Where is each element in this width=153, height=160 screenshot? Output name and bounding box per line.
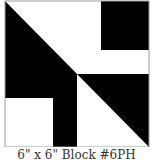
top-right-black-square [101,1,149,50]
quilt-block-diagram [0,0,153,147]
block-caption: 6" x 6" Block #6PH [0,148,153,160]
